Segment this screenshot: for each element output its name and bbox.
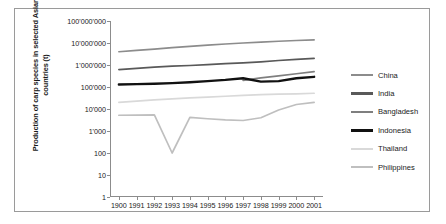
x-tick-mark [137, 197, 138, 200]
y-tick-label: 100'000 [81, 83, 106, 92]
x-tick-label: 1996 [217, 201, 233, 210]
x-tick-mark [154, 197, 155, 200]
x-tick-mark [225, 197, 226, 200]
x-tick-label: 1992 [146, 201, 162, 210]
legend-label: Thailand [378, 144, 407, 153]
chart-legend: ChinaIndiaBangladeshIndonesiaThailandPhi… [351, 66, 446, 176]
x-tick-mark [296, 197, 297, 200]
y-tick-label: 10'000 [85, 105, 106, 114]
series-line-indonesia [119, 77, 314, 85]
x-tick-label: 2001 [306, 201, 322, 210]
legend-label: Philippines [378, 163, 415, 172]
legend-swatch-icon [351, 166, 373, 168]
y-tick-label: 10 [98, 171, 106, 180]
legend-item-india[interactable]: India [351, 84, 446, 102]
y-tick-mark [107, 197, 110, 198]
series-line-india [119, 58, 314, 69]
legend-swatch-icon [351, 92, 373, 95]
legend-label: India [378, 89, 394, 98]
x-tick-label: 1999 [271, 201, 287, 210]
legend-item-bangladesh[interactable]: Bangladesh [351, 103, 446, 121]
legend-label: Indonesia [378, 126, 411, 135]
series-line-philippines [119, 102, 314, 153]
chart-frame: Production of carp species in selected A… [14, 8, 430, 212]
legend-item-indonesia[interactable]: Indonesia [351, 121, 446, 139]
x-tick-label: 1900 [111, 201, 127, 210]
series-line-china [119, 40, 314, 52]
legend-swatch-icon [351, 148, 373, 150]
y-tick-label: 100 [94, 149, 106, 158]
y-tick-label: 1 [102, 193, 106, 202]
y-tick-label: 1'000'000 [75, 61, 106, 70]
series-line-bangladesh [243, 72, 314, 81]
y-axis-title: Production of carp species in selected A… [31, 0, 51, 159]
x-tick-mark [208, 197, 209, 200]
x-tick-mark [314, 197, 315, 200]
legend-item-thailand[interactable]: Thailand [351, 140, 446, 158]
x-tick-mark [279, 197, 280, 200]
y-tick-label: 1'000 [89, 127, 106, 136]
legend-swatch-icon [351, 129, 373, 132]
legend-label: China [378, 71, 398, 80]
x-tick-mark [172, 197, 173, 200]
x-tick-label: 1993 [164, 201, 180, 210]
legend-swatch-icon [351, 74, 373, 77]
x-tick-mark [243, 197, 244, 200]
x-tick-label: 1997 [235, 201, 251, 210]
x-tick-label: 1998 [253, 201, 269, 210]
x-tick-label: 1991 [129, 201, 145, 210]
x-tick-mark [190, 197, 191, 200]
x-tick-label: 1995 [200, 201, 216, 210]
legend-label: Bangladesh [378, 107, 418, 116]
x-tick-mark [261, 197, 262, 200]
x-tick-label: 2000 [288, 201, 304, 210]
y-tick-label: 10'000'000 [71, 39, 106, 48]
x-tick-label: 1994 [182, 201, 198, 210]
legend-item-china[interactable]: China [351, 66, 446, 84]
series-lines [110, 21, 323, 197]
legend-item-philippines[interactable]: Philippines [351, 158, 446, 176]
plot-area: 1101001'00010'000100'0001'000'00010'000'… [110, 21, 323, 197]
legend-swatch-icon [351, 111, 373, 114]
series-line-thailand [119, 93, 314, 102]
x-tick-mark [119, 197, 120, 200]
y-tick-label: 100'000'000 [67, 17, 106, 26]
